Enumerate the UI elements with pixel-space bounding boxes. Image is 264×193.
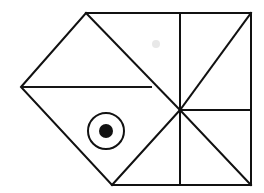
geometric-fish-diagram	[0, 0, 264, 193]
figure-canvas	[0, 0, 264, 193]
tail-diagonal-upper-line	[180, 13, 251, 110]
tail-diagonal-lower-line	[180, 110, 251, 185]
paper-smudge-icon	[152, 40, 160, 48]
fin-diagonal-line	[86, 13, 180, 110]
fish-eye-pupil	[99, 124, 113, 138]
